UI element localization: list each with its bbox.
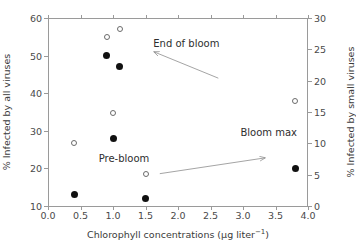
y-tick-label-left: 30 xyxy=(30,125,42,136)
x-tick-label: 3.0 xyxy=(235,210,250,221)
x-tick-label: 1.5 xyxy=(138,210,153,221)
y-tick-label-right: 5 xyxy=(314,169,320,180)
y-axis-left-title: % Infected by all viruses xyxy=(1,54,12,171)
x-tick-top xyxy=(308,15,309,18)
x-tick-label: 4.0 xyxy=(300,210,315,221)
x-tick-label: 1.0 xyxy=(105,210,120,221)
x-tick-label: 0.0 xyxy=(40,210,55,221)
y-tick-label-right: 20 xyxy=(314,75,326,86)
x-axis-title-exponent: −1 xyxy=(255,228,265,236)
x-tick-label: 0.5 xyxy=(73,210,88,221)
x-tick-label: 2.0 xyxy=(170,210,185,221)
annotation-bloom-max: Bloom max xyxy=(240,127,297,138)
y-tick-right xyxy=(308,112,312,113)
y-tick-label-left: 50 xyxy=(30,50,42,61)
y-axis-right-title: % Infected by small viruses xyxy=(345,47,356,178)
plot-area: 102030405060 051015202530 0.00.51.01.52.… xyxy=(48,18,308,206)
x-tick-label: 2.5 xyxy=(203,210,218,221)
annotation-end-of-bloom: End of bloom xyxy=(153,38,219,49)
y-tick-label-right: 10 xyxy=(314,138,326,149)
y-tick-label-right: 25 xyxy=(314,44,326,55)
y-tick-label-left: 20 xyxy=(30,163,42,174)
annotation-pre-bloom: Pre-bloom xyxy=(99,153,150,164)
x-axis-title: Chlorophyll concentrations (μg liter−1) xyxy=(87,228,269,240)
y-tick-label-left: 40 xyxy=(30,88,42,99)
arrow-pre-bloom xyxy=(160,158,265,174)
y-tick-right xyxy=(308,49,312,50)
arrow-end-of-bloom xyxy=(154,52,218,78)
y-tick-label-left: 60 xyxy=(30,13,42,24)
y-tick-right xyxy=(308,18,312,19)
y-tick-label-right: 15 xyxy=(314,107,326,118)
chart-figure: 102030405060 051015202530 0.00.51.01.52.… xyxy=(0,0,356,247)
x-tick-label: 3.5 xyxy=(268,210,283,221)
y-tick-right xyxy=(308,143,312,144)
y-tick-label-right: 30 xyxy=(314,13,326,24)
y-tick-right xyxy=(308,175,312,176)
y-tick-right xyxy=(308,81,312,82)
